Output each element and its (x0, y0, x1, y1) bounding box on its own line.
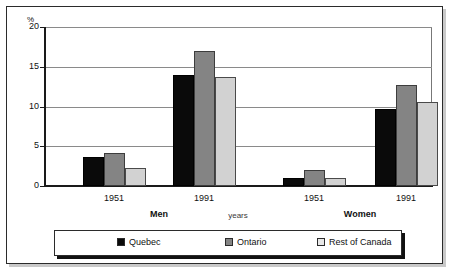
bar-rest-of-canada-women-1991 (417, 102, 438, 186)
bar-quebec-women-1951 (283, 178, 304, 186)
legend-swatch-icon (117, 238, 125, 246)
bars-layer (44, 27, 432, 186)
x-tick-label-year: 1991 (386, 193, 426, 203)
y-tick-label: 5 (17, 140, 39, 150)
legend-label: Quebec (129, 237, 161, 247)
legend-item-ontario[interactable]: Ontario (225, 237, 267, 247)
chart-legend: QuebecOntarioRest of Canada (54, 230, 402, 256)
y-tick-label: 0 (17, 180, 39, 190)
x-tick-label-year: 1991 (184, 193, 224, 203)
legend-label: Ontario (237, 237, 267, 247)
y-tick-label: 15 (17, 61, 39, 71)
x-tick-label-year: 1951 (294, 193, 334, 203)
bar-quebec-women-1991 (375, 109, 396, 186)
legend-label: Rest of Canada (329, 237, 392, 247)
panel-label-women: Women (330, 209, 390, 219)
legend-swatch-icon (225, 238, 233, 246)
y-tick-label: 10 (17, 101, 39, 111)
bar-rest-of-canada-men-1991 (215, 77, 236, 186)
bar-quebec-men-1991 (173, 75, 194, 186)
legend-item-rest-of-canada[interactable]: Rest of Canada (317, 237, 392, 247)
legend-swatch-icon (317, 238, 325, 246)
bar-ontario-men-1951 (104, 153, 125, 186)
bar-ontario-women-1951 (304, 170, 325, 186)
y-tick-label: 20 (17, 21, 39, 31)
bar-rest-of-canada-men-1951 (125, 168, 146, 186)
bar-rest-of-canada-women-1951 (325, 178, 346, 186)
chart-figure: % 05101520 1951199119511991MenWomen year… (0, 0, 456, 275)
panel-label-men: Men (129, 209, 189, 219)
bar-quebec-men-1951 (83, 157, 104, 186)
bar-ontario-women-1991 (396, 85, 417, 186)
x-axis-title: years (208, 211, 268, 220)
legend-item-quebec[interactable]: Quebec (117, 237, 161, 247)
x-tick-label-year: 1951 (94, 193, 134, 203)
bar-ontario-men-1991 (194, 51, 215, 186)
